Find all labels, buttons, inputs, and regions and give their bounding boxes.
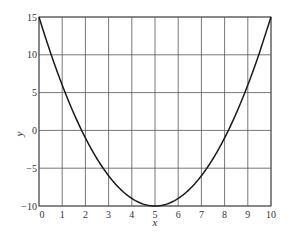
y-tick-label: 15 [27,12,37,23]
x-tick-labels: 012345678910 [40,209,277,220]
x-tick-label: 6 [176,209,181,220]
y-tick-label: 0 [32,125,37,136]
x-tick-label: 10 [266,209,276,220]
y-axis-label: y [13,131,25,137]
x-tick-label: 0 [40,209,45,220]
parabola-chart: 012345678910 −10−5051015 x y [0,0,288,240]
x-tick-label: 1 [60,209,65,220]
x-tick-label: 3 [106,209,111,220]
y-tick-label: −10 [21,201,37,212]
y-tick-labels: −10−5051015 [21,12,37,212]
x-axis-label: x [152,216,158,228]
grid-lines [39,17,271,206]
x-tick-label: 8 [222,209,227,220]
x-tick-label: 4 [129,209,134,220]
y-tick-label: −5 [26,163,37,174]
y-tick-label: 10 [27,49,37,60]
x-tick-label: 9 [245,209,250,220]
x-tick-label: 7 [199,209,204,220]
x-tick-label: 2 [83,209,88,220]
y-tick-label: 5 [32,87,37,98]
